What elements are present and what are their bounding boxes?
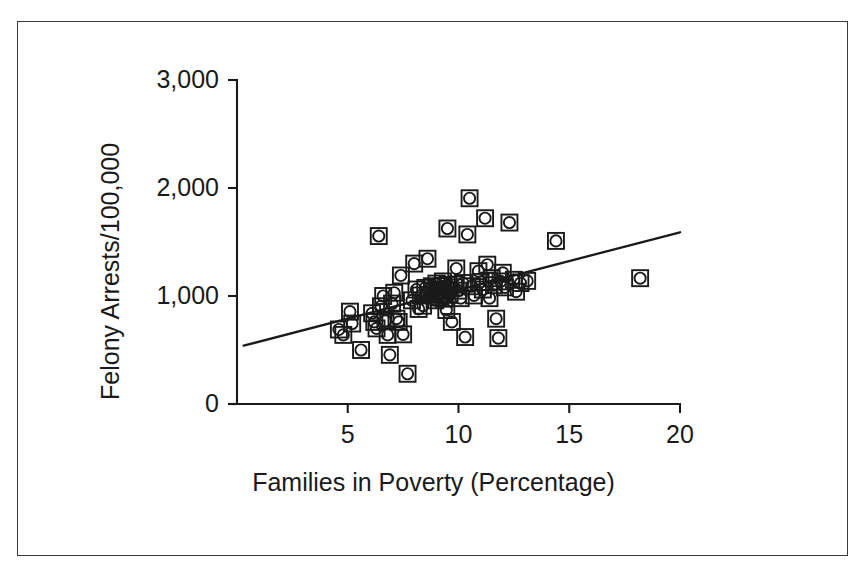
data-point-marker bbox=[548, 233, 564, 249]
marker-circle bbox=[550, 235, 561, 246]
y-axis-title: Felony Arrests/100,000 bbox=[98, 143, 123, 400]
data-point-marker bbox=[371, 228, 387, 244]
marker-circle bbox=[422, 253, 433, 264]
data-point-marker bbox=[353, 342, 369, 358]
data-point-marker bbox=[632, 270, 648, 286]
marker-circle bbox=[373, 230, 384, 241]
data-point-marker bbox=[382, 347, 398, 363]
data-point-marker bbox=[459, 226, 475, 242]
x-tick-label-5: 5 bbox=[288, 422, 408, 447]
data-point-marker bbox=[395, 326, 411, 342]
marker-circle bbox=[395, 270, 406, 281]
data-point-marker bbox=[462, 190, 478, 206]
marker-circle bbox=[384, 349, 395, 360]
marker-circle bbox=[442, 223, 453, 234]
data-point-marker bbox=[501, 215, 517, 231]
x-tick-label-15: 15 bbox=[509, 422, 629, 447]
data-point-marker bbox=[439, 221, 455, 237]
marker-circle bbox=[522, 275, 533, 286]
data-point-marker bbox=[490, 330, 506, 346]
marker-circle bbox=[460, 331, 471, 342]
x-tick-label-20: 20 bbox=[620, 422, 740, 447]
data-markers-group bbox=[331, 190, 648, 382]
marker-circle bbox=[493, 333, 504, 344]
x-axis-title: Families in Poverty (Percentage) bbox=[0, 470, 867, 495]
marker-circle bbox=[635, 273, 646, 284]
marker-circle bbox=[504, 217, 515, 228]
figure-container: 0 1,000 2,000 3,000 5 10 15 20 Felony Ar… bbox=[0, 0, 867, 579]
marker-circle bbox=[409, 258, 420, 269]
data-point-marker bbox=[400, 366, 416, 382]
marker-circle bbox=[451, 263, 462, 274]
data-point-marker bbox=[488, 311, 504, 327]
data-point-marker bbox=[477, 210, 493, 226]
x-tick-label-10: 10 bbox=[399, 422, 519, 447]
marker-circle bbox=[355, 344, 366, 355]
marker-circle bbox=[462, 229, 473, 240]
data-point-marker bbox=[457, 329, 473, 345]
axes-group bbox=[228, 80, 680, 413]
marker-circle bbox=[464, 193, 475, 204]
marker-circle bbox=[402, 368, 413, 379]
marker-circle bbox=[491, 313, 502, 324]
y-tick-label-3000: 3,000 bbox=[79, 67, 219, 92]
marker-circle bbox=[479, 213, 490, 224]
